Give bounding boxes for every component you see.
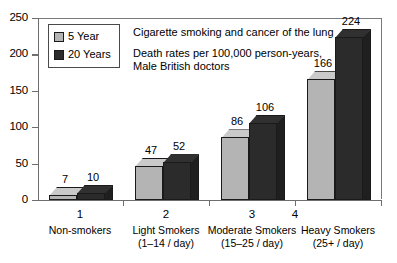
x-category-label-3: Heavy Smokers (25+ / day) [301,224,375,249]
bar-value-label-0-0: 7 [62,174,68,185]
bar-1-1 [163,162,191,200]
legend: 5 Year 20 Years [48,24,120,68]
y-axis-label-250: 250 [9,12,28,24]
x-category-line2-3: (25+ / day) [301,237,375,250]
chart-subtitle-line2: Male British doctors [133,60,322,73]
x-category-line1-2: Moderate Smokers [208,224,297,236]
x-axis-num-3: 3 [249,208,255,220]
x-tick-1 [123,200,124,206]
y-axis-line [38,18,39,200]
x-category-line2-2: (15–25 / day) [208,237,297,250]
x-category-line1-3: Heavy Smokers [301,224,375,236]
bar-side-face [276,115,285,200]
x-axis-num-4: 4 [292,208,298,220]
y-axis-label-100: 100 [9,121,28,133]
y-tick-250 [32,18,38,19]
bar-0-1 [77,193,105,200]
bar-2-1 [249,123,277,200]
chart-subtitle: Death rates per 100,000 person-years, Ma… [133,47,322,72]
bar-side-face [362,29,371,200]
x-tick-3 [295,200,296,206]
x-category-line2-1: (1–14 / day) [132,237,199,250]
x-category-label-0: Non-smokers [49,224,111,237]
legend-item-20-years: 20 Years [54,49,111,60]
x-tick-4 [381,200,382,206]
x-category-line1-1: Light Smokers [132,224,199,236]
x-category-label-1: Light Smokers (1–14 / day) [132,224,199,249]
x-category-label-2: Moderate Smokers (15–25 / day) [208,224,297,249]
legend-swatch-20-years [54,50,64,60]
x-category-line1-0: Non-smokers [49,224,111,236]
bar-3-0 [307,79,335,200]
chart-title: Cigarette smoking and cancer of the lung [133,26,334,38]
x-axis-num-2: 2 [163,208,169,220]
bar-0-0 [49,195,77,200]
bar-value-label-2-1: 106 [256,102,274,113]
bar-value-label-1-1: 52 [173,141,185,152]
y-tick-200 [32,54,38,55]
chart-subtitle-line1: Death rates per 100,000 person-years, [133,47,322,59]
bar-value-label-2-0: 86 [231,116,243,127]
y-axis-label-0: 0 [22,194,28,206]
y-tick-150 [32,91,38,92]
legend-label-20-years: 20 Years [68,49,111,60]
y-axis-label-50: 50 [16,158,28,170]
x-tick-2 [209,200,210,206]
y-axis-label-200: 200 [9,48,28,60]
y-axis-label-150: 150 [9,85,28,97]
legend-label-5-year: 5 Year [68,31,99,42]
bar-chart: 250 200 150 100 50 0 1 2 3 4 Non-smokers… [0,0,397,263]
bar-value-label-0-1: 10 [87,172,99,183]
bar-value-label-3-1: 224 [342,16,360,27]
y-tick-100 [32,127,38,128]
bar-2-0 [221,137,249,200]
bar-3-1 [335,37,363,200]
bar-value-label-1-0: 47 [145,145,157,156]
bar-1-0 [135,166,163,200]
x-axis-num-1: 1 [77,208,83,220]
y-tick-50 [32,164,38,165]
legend-swatch-5-year [54,32,64,42]
y-tick-0 [32,200,38,201]
legend-item-5-year: 5 Year [54,31,99,42]
